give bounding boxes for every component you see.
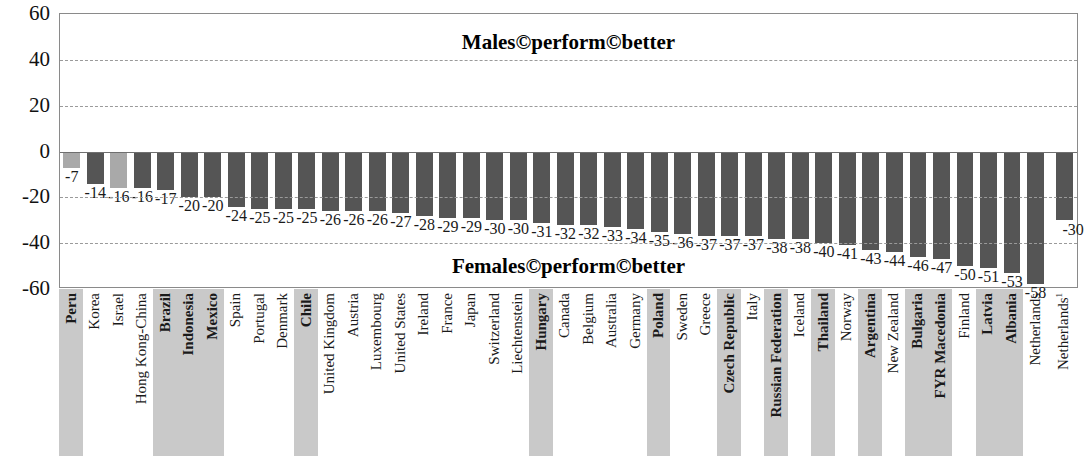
bar-value-label: -26	[367, 212, 388, 228]
bar-value-label: -30	[484, 221, 505, 237]
category-label: FYR Macedonia	[933, 293, 948, 398]
category-label-slot: Bulgaria	[905, 289, 929, 456]
category-label-slot: Canada	[553, 289, 577, 456]
category-label-slot: Liechtenstein	[506, 289, 530, 456]
category-label: Finland	[956, 293, 971, 339]
category-label-slot: Albania	[999, 289, 1023, 456]
category-label-slot: Luxembourg	[365, 289, 389, 456]
y-axis-tick: -60	[22, 278, 50, 299]
bar[interactable]	[369, 152, 386, 212]
category-label-slot: Czech Republic	[717, 289, 741, 456]
bar-value-label: -20	[179, 198, 200, 214]
bar[interactable]	[604, 152, 621, 228]
category-label: Latvia	[980, 293, 995, 335]
bar[interactable]	[87, 152, 104, 184]
bar[interactable]	[392, 152, 409, 214]
category-label-slot: Netherlands	[1023, 289, 1047, 456]
bar[interactable]	[322, 152, 339, 212]
bar[interactable]	[486, 152, 503, 221]
bar[interactable]	[157, 152, 174, 191]
category-label: France	[439, 293, 454, 334]
bar[interactable]	[110, 152, 127, 189]
category-label: Chile	[298, 293, 313, 327]
category-label: Luxembourg	[369, 293, 384, 370]
bar-value-label: -29	[461, 219, 482, 235]
bar[interactable]	[63, 152, 80, 168]
y-axis-tick: 60	[29, 3, 50, 24]
bar[interactable]	[557, 152, 574, 225]
category-label: Netherlands	[1027, 293, 1042, 365]
bar[interactable]	[651, 152, 668, 232]
category-label-slot: New Zealand	[882, 289, 906, 456]
category-label: Israel	[110, 293, 125, 326]
category-label: Liechtenstein	[510, 293, 525, 374]
category-label-slot: Peru	[59, 289, 83, 456]
category-label: Australia	[604, 293, 619, 348]
bar[interactable]	[345, 152, 362, 212]
category-label: Sweden	[674, 293, 689, 341]
bar[interactable]	[886, 152, 903, 253]
category-label-slot: FYR Macedonia	[929, 289, 953, 456]
bar-value-label: -37	[696, 237, 717, 253]
category-label-slot: Portugal	[247, 289, 271, 456]
bar-value-label: -25	[273, 210, 294, 226]
category-label: Japan	[463, 293, 478, 327]
bar[interactable]	[627, 152, 644, 230]
bar-value-label: -20	[202, 198, 223, 214]
bar[interactable]	[204, 152, 221, 198]
category-label-slot: Spain	[224, 289, 248, 456]
category-label: Thailand	[815, 293, 830, 351]
category-label: Russian Federation	[768, 293, 783, 418]
category-label: New Zealand	[886, 293, 901, 373]
bar[interactable]	[439, 152, 456, 218]
bar[interactable]	[580, 152, 597, 225]
category-label: Canada	[557, 293, 572, 338]
bar[interactable]	[463, 152, 480, 218]
bar-value-label: -17	[155, 191, 176, 207]
category-label-slot: Hong Kong-China	[130, 289, 154, 456]
bar-value-label: -30	[508, 221, 529, 237]
category-label-slot: Korea	[83, 289, 107, 456]
bar[interactable]	[910, 152, 927, 257]
bar[interactable]	[957, 152, 974, 267]
bar[interactable]	[698, 152, 715, 237]
category-label: Switzerland	[486, 293, 501, 365]
y-axis-tick: 0	[40, 140, 51, 161]
bar[interactable]	[674, 152, 691, 235]
bar-value-label: -28	[414, 217, 435, 233]
bar-value-label: -32	[555, 226, 576, 242]
category-label: Germany	[627, 293, 642, 349]
plot-area: -7-14-16-16-17-20-20-24-25-25-25-26-26-2…	[59, 13, 1078, 288]
category-label-slot: Japan	[459, 289, 483, 456]
bar[interactable]	[275, 152, 292, 209]
bar[interactable]	[251, 152, 268, 209]
gridline	[60, 60, 1077, 61]
bar-value-label: -32	[578, 226, 599, 242]
category-label: Czech Republic	[721, 293, 736, 393]
bar[interactable]	[533, 152, 550, 223]
bar[interactable]	[839, 152, 856, 246]
bar-value-label: -24	[226, 208, 247, 224]
bar[interactable]	[134, 152, 151, 189]
bar-value-label: -30	[1062, 222, 1083, 238]
category-label: Iceland	[792, 293, 807, 337]
bar[interactable]	[298, 152, 315, 209]
bar[interactable]	[862, 152, 879, 251]
bar-value-label: -27	[390, 214, 411, 230]
gridline	[60, 243, 1077, 244]
category-label: Spain	[228, 293, 243, 327]
bar[interactable]	[768, 152, 785, 239]
category-label-slot: Brazil	[153, 289, 177, 456]
category-label-slot: United States	[388, 289, 412, 456]
bar[interactable]	[1056, 152, 1073, 221]
bar[interactable]	[416, 152, 433, 216]
category-label: Hungary	[533, 293, 548, 351]
category-label-slot: Norway	[835, 289, 859, 456]
bar[interactable]	[181, 152, 198, 198]
bar-value-label: -26	[343, 212, 364, 228]
bar[interactable]	[980, 152, 997, 269]
bar[interactable]	[721, 152, 738, 237]
bar[interactable]	[510, 152, 527, 221]
bar[interactable]	[792, 152, 809, 239]
bar[interactable]	[745, 152, 762, 237]
